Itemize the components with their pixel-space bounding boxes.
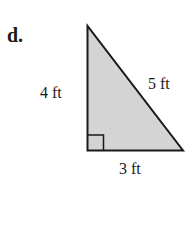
side-label-hypotenuse: 5 ft — [148, 76, 170, 92]
side-label-vertical: 4 ft — [40, 85, 62, 101]
side-label-base: 3 ft — [119, 161, 141, 177]
